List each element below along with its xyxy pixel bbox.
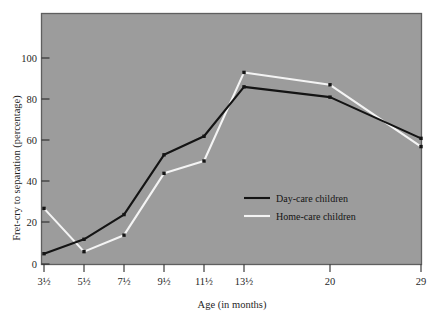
data-point-marker [82,250,85,253]
data-point-marker [162,172,165,175]
x-axis-tick-labels: 3½ 5½ 7½ 9½ 11½ 13½ 20 29 [37,276,426,287]
plot-area-background [42,14,422,265]
figure-container: 100 80 60 40 20 0 Fret-cry to separation… [0,0,439,322]
data-point-marker [419,137,422,140]
y-tick-label: 20 [27,217,38,228]
x-tick-label: 7½ [117,276,130,287]
y-axis-title: Fret-cry to separation (percentage) [11,95,23,241]
data-point-marker [242,71,245,74]
data-point-marker [242,85,245,88]
data-point-marker [328,95,331,98]
legend-label-home-care: Home-care children [276,211,356,222]
data-point-marker [202,135,205,138]
y-tick-label: 0 [32,259,37,270]
data-point-marker [162,153,165,156]
x-axis-title: Age (in months) [198,299,267,311]
data-point-marker [82,238,85,241]
x-tick-label: 5½ [77,276,90,287]
data-point-marker [202,159,205,162]
data-point-marker [42,252,45,255]
x-tick-label: 13½ [235,276,254,287]
x-tick-label: 9½ [157,276,170,287]
line-chart: 100 80 60 40 20 0 Fret-cry to separation… [0,0,439,322]
y-axis-tick-labels: 100 80 60 40 20 0 [21,53,37,270]
data-point-marker [122,233,125,236]
y-tick-label: 40 [27,176,38,187]
x-tick-label: 11½ [195,276,213,287]
y-tick-label: 80 [27,94,38,105]
y-tick-label: 60 [27,135,38,146]
x-tick-label: 29 [416,276,427,287]
data-point-marker [122,213,125,216]
data-point-marker [328,83,331,86]
x-axis-ticks [44,265,421,273]
x-tick-label: 20 [325,276,336,287]
y-tick-label: 100 [21,53,37,64]
legend-label-day-care: Day-care children [276,193,348,204]
data-point-marker [42,207,45,210]
x-tick-label: 3½ [37,276,50,287]
data-point-marker [419,145,422,148]
